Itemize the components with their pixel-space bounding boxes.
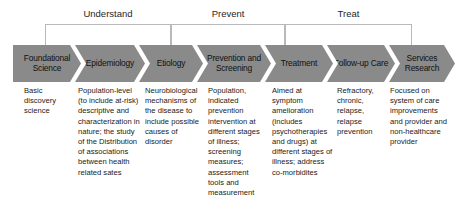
chevron-treatment: Treatment xyxy=(265,45,333,82)
research-continuum-diagram: Understand Prevent Treat Foundational Sc… xyxy=(0,0,459,211)
description-services-research: Focused on system of care improvements a… xyxy=(390,86,448,147)
description-foundational-science: Basic discovery science xyxy=(24,86,72,117)
chevron-label-foundational-science: Foundational Science xyxy=(13,54,81,73)
chevron-label-treatment: Treatment xyxy=(278,59,320,69)
description-epidemiology: Population-level (to include at-risk) de… xyxy=(78,86,140,178)
chevron-etiology: Etiology xyxy=(139,45,203,82)
chevron-label-prevention-and-screening: Prevention and Screening xyxy=(197,54,271,73)
phase-bracket-understand xyxy=(45,24,171,46)
description-follow-up-care: Refractory, chronic, relapse, relapse pr… xyxy=(337,86,383,137)
chevron-prevention-and-screening: Prevention and Screening xyxy=(197,45,271,82)
description-treatment: Aimed at symptom amelioration (includes … xyxy=(272,86,333,178)
chevron-foundational-science: Foundational Science xyxy=(13,45,81,82)
chevron-label-follow-up-care: Follow-up Care xyxy=(331,59,391,69)
phase-label-prevent: Prevent xyxy=(171,8,285,19)
phase-label-understand: Understand xyxy=(45,8,171,19)
chevron-label-etiology: Etiology xyxy=(154,59,188,69)
phase-bracket-prevent xyxy=(171,24,285,46)
stage-chevron-band: Foundational Science Epidemiology Etiolo… xyxy=(13,45,455,82)
phase-bracket-layer: Understand Prevent Treat xyxy=(0,0,459,46)
phase-label-treat: Treat xyxy=(285,8,412,19)
description-prevention-and-screening: Population, indicated prevention interve… xyxy=(208,86,265,198)
chevron-label-services-research: Services Research xyxy=(389,54,455,73)
description-etiology: Neurobiological mechanisms of the diseas… xyxy=(145,86,203,147)
phase-bracket-treat xyxy=(285,24,412,46)
chevron-epidemiology: Epidemiology xyxy=(75,45,145,82)
chevron-services-research: Services Research xyxy=(389,45,455,82)
chevron-follow-up-care: Follow-up Care xyxy=(327,45,395,82)
stage-description-layer: Basic discovery science Population-level… xyxy=(0,86,459,211)
chevron-label-epidemiology: Epidemiology xyxy=(83,59,137,69)
